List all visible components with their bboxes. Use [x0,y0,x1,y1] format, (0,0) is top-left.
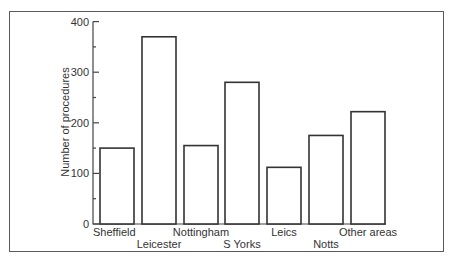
y-tick-label: 200 [71,117,89,129]
x-category-label: Leicester [137,238,182,250]
bar-other-areas [351,112,385,224]
y-tick-label: 400 [71,16,89,28]
x-category-label: Nottingham [173,226,229,238]
x-category-label: Other areas [339,226,398,238]
bar-chart: 0100200300400 SheffieldLeicesterNottingh… [0,0,453,262]
x-axis-labels: SheffieldLeicesterNottinghamS YorksLeics… [93,226,398,250]
x-category-label: Leics [271,226,297,238]
bar-sheffield [100,148,134,224]
bar-leicester [142,37,176,224]
y-tick-label: 0 [83,218,89,230]
bar-s-yorks [225,82,259,224]
bars [100,37,385,224]
bar-nottingham [184,146,218,224]
y-tick-label: 300 [71,66,89,78]
bar-notts [309,135,343,224]
x-category-label: S Yorks [223,238,261,250]
x-category-label: Notts [313,238,339,250]
x-category-label: Sheffield [93,226,136,238]
y-axis-label: Number of procedures [59,67,71,177]
y-tick-label: 100 [71,167,89,179]
bar-leics [267,167,301,224]
